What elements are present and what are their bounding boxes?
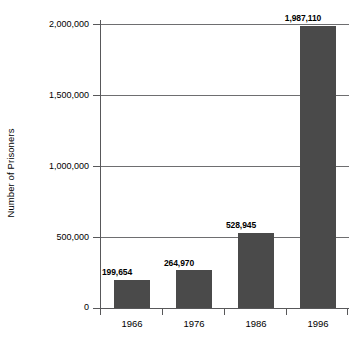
- bar-value-1996: 1,987,110: [265, 13, 341, 23]
- bar-value-1976: 264,970: [144, 258, 214, 268]
- x-tick-mark-0: [100, 308, 101, 315]
- bar-value-1966: 199,654: [82, 267, 152, 277]
- bar-1986[interactable]: [238, 233, 274, 308]
- x-tick-mark-4: [347, 308, 348, 315]
- x-tick-mark-3: [286, 308, 287, 315]
- y-tick-mark-0: [93, 308, 100, 309]
- y-tick-mark-500000: [93, 237, 100, 238]
- y-tick-label-0: 0: [0, 302, 89, 312]
- y-tick-label-1000000: 1,000,000: [0, 161, 89, 171]
- bar-value-1986: 528,945: [206, 220, 276, 230]
- prisoner-population-bar-chart: Number of Prisoners 2,000,000 1,500,000 …: [0, 0, 363, 358]
- bar-1966[interactable]: [114, 280, 150, 308]
- bar-1976[interactable]: [176, 270, 212, 308]
- y-tick-label-500000: 500,000: [0, 232, 89, 242]
- y-tick-label-2000000: 2,000,000: [0, 19, 89, 29]
- bars-layer: [100, 24, 349, 308]
- x-tick-mark-2: [224, 308, 225, 315]
- y-tick-mark-1500000: [93, 95, 100, 96]
- x-tick-mark-1: [162, 308, 163, 315]
- y-tick-label-1500000: 1,500,000: [0, 90, 89, 100]
- y-tick-mark-1000000: [93, 166, 100, 167]
- x-axis-label-1996: 1996: [278, 318, 358, 329]
- y-tick-mark-2000000: [93, 24, 100, 25]
- bar-1996[interactable]: [300, 26, 336, 308]
- y-axis-title-label: Number of Prisoners: [5, 129, 16, 218]
